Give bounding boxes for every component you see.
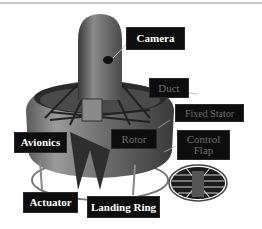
- label-fixed-stator: Fixed Stator: [175, 104, 244, 122]
- payload-pod-shape: [78, 14, 122, 100]
- label-actuator: Actuator: [23, 192, 78, 213]
- label-avionics: Avionics: [14, 132, 67, 153]
- control-flap-inset: [169, 165, 227, 201]
- label-landing-ring: Landing Ring: [87, 196, 160, 218]
- label-duct: Duct: [149, 78, 189, 98]
- label-rotor: Rotor: [111, 129, 157, 149]
- label-control-flap: Control Flap: [177, 130, 230, 160]
- camera-lens-shape: [103, 56, 113, 64]
- label-camera: Camera: [126, 27, 185, 50]
